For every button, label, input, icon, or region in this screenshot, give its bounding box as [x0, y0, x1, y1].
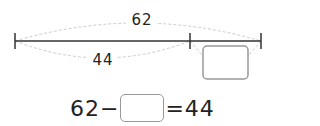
- equation: 62 − =44: [70, 93, 215, 123]
- part-label: 44: [88, 51, 118, 69]
- equation-left: 62: [70, 96, 100, 121]
- answer-box-diagram[interactable]: [203, 46, 248, 79]
- answer-input-box[interactable]: [120, 94, 164, 122]
- equation-rhs: =44: [165, 96, 214, 121]
- minus-sign: −: [100, 96, 119, 121]
- total-label: 62: [126, 11, 158, 29]
